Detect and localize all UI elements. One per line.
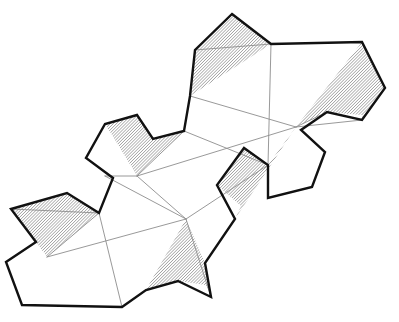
polyhedron-net-figure <box>0 0 399 322</box>
